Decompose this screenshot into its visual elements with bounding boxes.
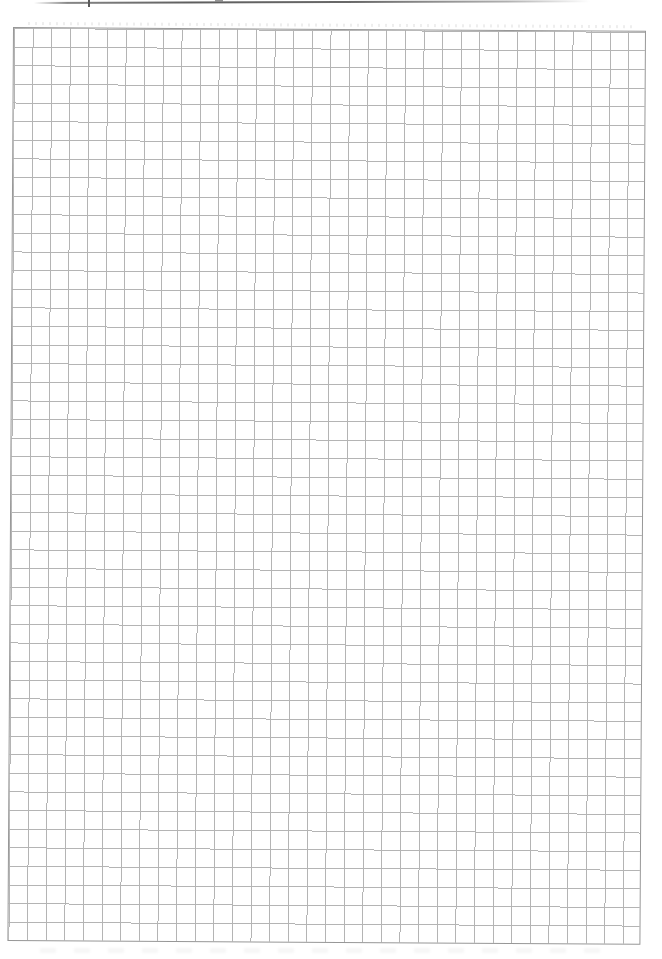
scan-noise-band	[40, 948, 600, 953]
graph-paper-grid	[7, 27, 646, 945]
header-underline-rule	[34, 0, 590, 4]
scanned-sheet	[0, 0, 662, 959]
cropped-text-descender-mark	[215, 0, 223, 2]
cropped-text-descender-mark	[88, 0, 90, 7]
